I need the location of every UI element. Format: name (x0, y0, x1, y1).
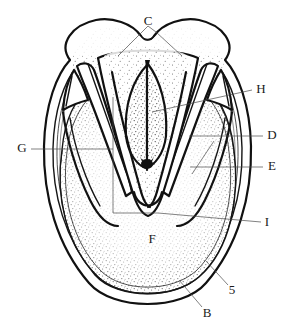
label-D: D (267, 127, 276, 142)
hoof-diagram-figure: C H D E G I F 5 B (0, 0, 295, 331)
label-I: I (265, 214, 269, 229)
label-F: F (148, 231, 155, 246)
label-B: B (203, 305, 212, 320)
label-C: C (144, 13, 153, 28)
label-E: E (268, 158, 276, 173)
hoof-anatomy-drawing: C H D E G I F 5 B (0, 0, 295, 331)
label-H: H (256, 81, 265, 96)
label-G: G (17, 140, 26, 155)
label-5: 5 (229, 282, 236, 297)
